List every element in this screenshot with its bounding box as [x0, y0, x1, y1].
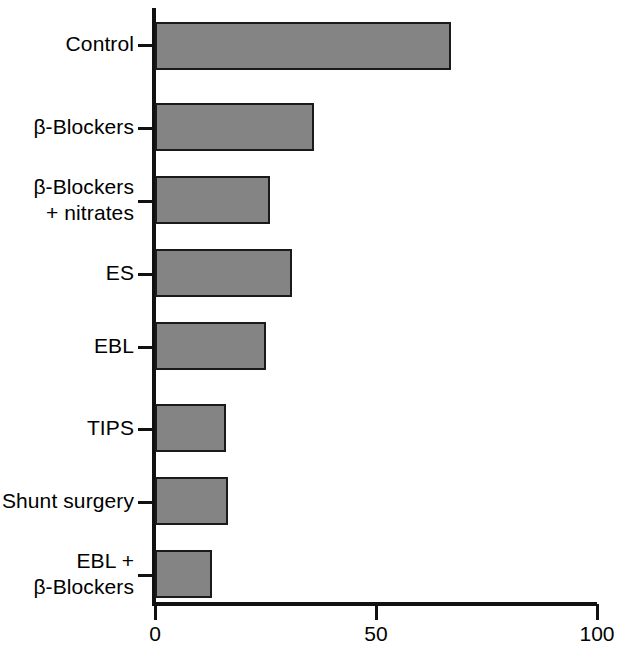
y-axis-tick [138, 346, 153, 349]
y-axis-tick [138, 200, 153, 203]
y-axis-tick [138, 501, 153, 504]
y-axis-label: β-Blockers [33, 114, 134, 140]
bar-rect-beta-blockers [155, 103, 314, 151]
bar-rect-ebl-beta-blockers [155, 550, 212, 598]
x-axis-tick-label: 100 [557, 622, 618, 646]
y-axis-tick [138, 273, 153, 276]
y-axis-label: Shunt surgery [2, 488, 134, 514]
bar-rect-ebl [155, 322, 266, 370]
y-axis-label: Control [66, 31, 134, 57]
y-axis-tick [138, 574, 153, 577]
x-axis-tick-label: 0 [115, 622, 195, 646]
x-axis-tick [375, 604, 378, 620]
bar-rect-beta-blockers-nitrates [155, 176, 270, 224]
y-axis-label: EBL + β-Blockers [33, 548, 134, 600]
bar-rect-control [155, 22, 451, 70]
plot-area: Control β-Blockers β-Blockers + nitrates… [0, 0, 618, 649]
y-axis-tick [138, 127, 153, 130]
y-axis-label: TIPS [87, 415, 134, 441]
bar-rect-es [155, 249, 292, 297]
y-axis-label: ES [106, 260, 134, 286]
bar-chart: Control β-Blockers β-Blockers + nitrates… [0, 0, 618, 649]
x-axis-tick-label: 50 [336, 622, 416, 646]
y-axis-label: EBL [94, 333, 134, 359]
bar-rect-tips [155, 404, 226, 452]
bar-rect-shunt-surgery [155, 477, 228, 525]
y-axis-tick [138, 428, 153, 431]
y-axis-label: β-Blockers + nitrates [33, 174, 134, 226]
y-axis-tick [138, 44, 153, 47]
x-axis-tick [596, 604, 599, 620]
x-axis-tick [154, 604, 157, 620]
